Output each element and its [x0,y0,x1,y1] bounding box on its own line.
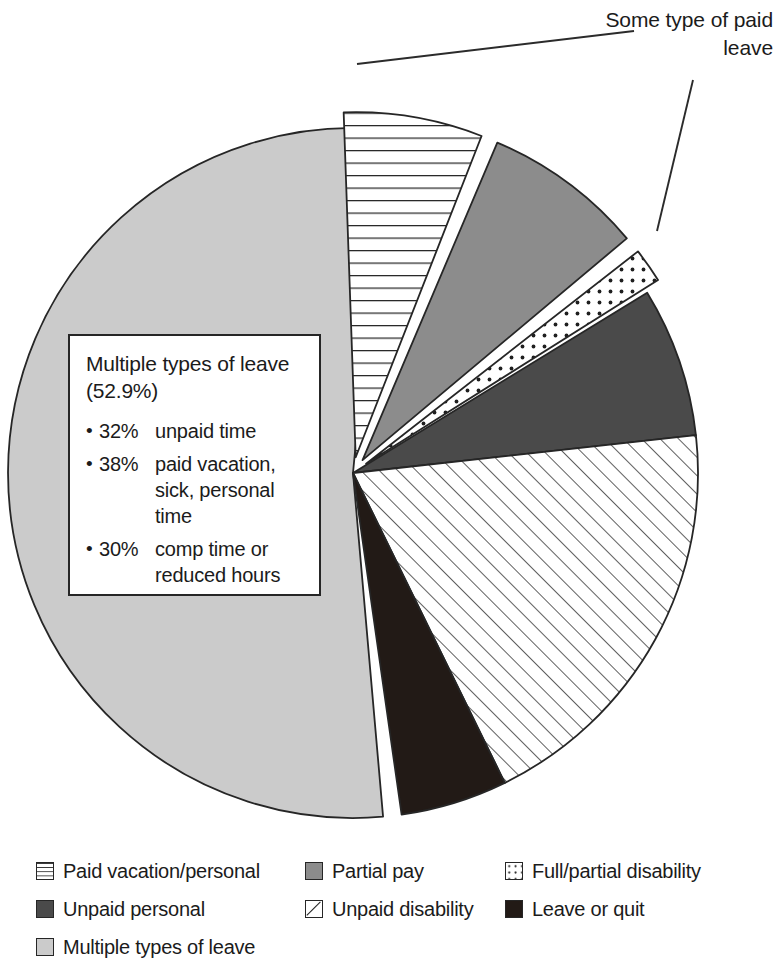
legend-item[interactable]: Partial pay [305,852,473,890]
legend-swatch-icon [305,862,323,880]
legend-column-2: Partial pay Unpaid disability [305,852,473,928]
legend-swatch-icon [505,900,523,918]
note-list-item: • 30% comp time or reduced hours [86,536,305,588]
note-list-item: • 38% paid vacation, sick, personal time [86,451,305,529]
legend-item[interactable]: Paid vacation/personal [36,852,260,890]
legend-item[interactable]: Full/partial disability [505,852,701,890]
note-item-percent: 38% [99,451,155,477]
legend-label: Partial pay [332,860,424,883]
legend-column-3: Full/partial disability Leave or quit [505,852,701,928]
chart-legend: Paid vacation/personal Unpaid personal M… [0,852,781,975]
legend-label: Unpaid personal [63,898,205,921]
leader-line-full-partial-disability [657,80,693,231]
legend-swatch-icon [505,862,523,880]
legend-label: Paid vacation/personal [63,860,260,883]
pie-chart-figure: Some type of paid leave Multiple types o… [0,0,781,975]
bullet-icon: • [86,536,99,562]
legend-swatch-icon [36,900,54,918]
note-item-percent: 32% [99,418,155,444]
legend-item[interactable]: Leave or quit [505,890,701,928]
note-item-label: unpaid time [155,418,305,444]
note-title: Multiple types of leave (52.9%) [86,350,305,404]
callout-some-type-of-paid-leave: Some type of paid leave [605,6,773,62]
legend-column-1: Paid vacation/personal Unpaid personal M… [36,852,260,966]
note-list-item: • 32% unpaid time [86,418,305,444]
legend-swatch-icon [36,862,54,880]
bullet-icon: • [86,451,99,477]
legend-swatch-icon [305,900,323,918]
legend-item[interactable]: Unpaid personal [36,890,260,928]
legend-swatch-icon [36,938,54,956]
note-breakdown-list: • 32% unpaid time • 38% paid vacation, s… [86,418,305,588]
legend-label: Full/partial disability [532,860,701,883]
bullet-icon: • [86,418,99,444]
note-item-percent: 30% [99,536,155,562]
note-item-label: paid vacation, sick, personal time [155,451,305,529]
note-item-label: comp time or reduced hours [155,536,305,588]
legend-item[interactable]: Multiple types of leave [36,928,260,966]
legend-item[interactable]: Unpaid disability [305,890,473,928]
legend-label: Unpaid disability [332,898,473,921]
multiple-types-note-box: Multiple types of leave (52.9%) • 32% un… [68,334,321,596]
leader-line-paid-vacation [357,31,634,64]
legend-label: Leave or quit [532,898,644,921]
legend-label: Multiple types of leave [63,936,255,959]
